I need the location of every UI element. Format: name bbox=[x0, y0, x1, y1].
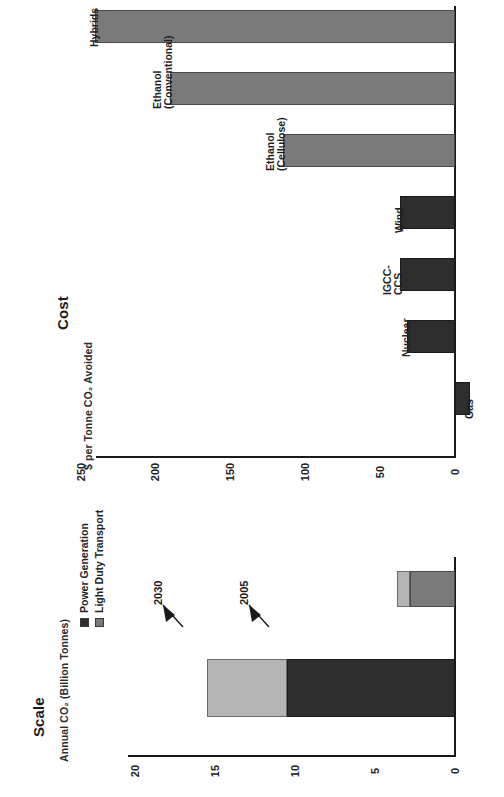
cost-bar-label-ethanol-cellulose: Ethanol(Cellulose) bbox=[265, 117, 288, 171]
cost-bar-nuclear bbox=[407, 320, 455, 353]
cost-chart-panel: Cost $ per Tonne CO₂ Avoided HybridsEtha… bbox=[0, 0, 504, 497]
scale-tick-15: 15 bbox=[209, 757, 221, 785]
cost-tick-0: 0 bbox=[449, 458, 461, 486]
leader-line-2005 bbox=[241, 605, 311, 665]
cost-tick-200: 200 bbox=[149, 458, 161, 486]
scale-tick-10: 10 bbox=[289, 757, 301, 785]
cost-tick-100: 100 bbox=[299, 458, 311, 486]
scale-tick-20: 20 bbox=[129, 757, 141, 785]
cost-bar-ethanol-conventional bbox=[170, 72, 455, 105]
scale-tick-5: 5 bbox=[369, 757, 381, 785]
cost-bar-hybrids bbox=[95, 10, 455, 43]
scale-bar-emissions-light-duty-transport bbox=[207, 659, 287, 717]
scale-bar-avoided-potential-power-generation bbox=[410, 571, 455, 607]
scale-bar-avoided-potential-light-duty-transport bbox=[397, 571, 410, 607]
cost-bar-label-wind: Wind bbox=[394, 207, 405, 233]
scale-plot-area: 05101520 2030 2005 bbox=[0, 497, 504, 797]
cost-bar-ethanol-cellulose bbox=[283, 134, 455, 167]
leader-line-2030 bbox=[155, 605, 225, 665]
annotation-2005: 2005 bbox=[238, 581, 250, 605]
cost-bar-label-igcc-ccs: IGCC-CCS bbox=[382, 265, 405, 295]
scale-tick-0: 0 bbox=[449, 757, 461, 785]
scale-bar-emissions-power-generation bbox=[287, 659, 455, 717]
cost-bar-label-hybrids: Hybrids bbox=[89, 8, 100, 47]
cost-bar-igcc-ccs bbox=[400, 258, 455, 291]
annotation-2030: 2030 bbox=[152, 581, 164, 605]
scale-chart-panel: Scale Annual CO₂ (Billion Tonnes) Power … bbox=[0, 497, 504, 797]
cost-tick-150: 150 bbox=[224, 458, 236, 486]
cost-tick-50: 50 bbox=[374, 458, 386, 486]
cost-tick-250: 250 bbox=[75, 458, 87, 486]
cost-bar-wind bbox=[400, 196, 455, 229]
cost-plot-area: HybridsEthanol(Conventional)Ethanol(Cell… bbox=[0, 0, 504, 497]
cost-bar-label-nuclear: Nuclear bbox=[401, 318, 412, 357]
cost-bar-label-ethanol-conventional: Ethanol(Conventional) bbox=[152, 36, 175, 110]
cost-bar-label-gas: Gas bbox=[464, 399, 475, 419]
